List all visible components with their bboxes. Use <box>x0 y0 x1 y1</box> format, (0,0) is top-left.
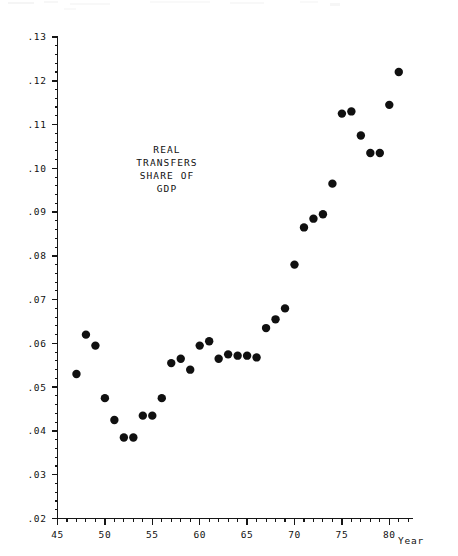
data-point <box>148 411 156 419</box>
annotation-line-3: SHARE OF <box>140 170 195 181</box>
y-tick-label: .13 <box>28 31 47 42</box>
x-tick-label: 50 <box>99 529 112 540</box>
data-point <box>167 359 175 367</box>
y-tick-label: .11 <box>28 119 47 130</box>
chart-annotation: REAL TRANSFERS SHARE OF GDP <box>136 144 197 194</box>
data-point <box>338 109 346 117</box>
y-tick-label: .10 <box>28 163 47 174</box>
annotation-line-4: GDP <box>157 183 177 194</box>
data-point <box>91 341 99 349</box>
plot-area: .02.03.04.05.06.07.08.09.10.11.12.13 455… <box>0 0 458 556</box>
y-tick-label: .02 <box>28 513 47 524</box>
data-point <box>243 351 251 359</box>
data-point <box>385 101 393 109</box>
y-tick-label: .07 <box>28 294 47 305</box>
x-axis-tick-labels: 4550556065707580 <box>51 529 395 540</box>
data-point <box>120 433 128 441</box>
x-tick-label: 80 <box>383 529 396 540</box>
data-point <box>376 149 384 157</box>
data-point <box>281 304 289 312</box>
data-point <box>252 353 260 361</box>
data-point <box>290 260 298 268</box>
y-axis-tick-labels: .02.03.04.05.06.07.08.09.10.11.12.13 <box>28 31 47 524</box>
data-points <box>72 68 403 442</box>
y-tick-label: .06 <box>28 338 47 349</box>
data-point <box>82 330 90 338</box>
y-tick-label: .08 <box>28 250 47 261</box>
data-point <box>357 131 365 139</box>
y-tick-label: .03 <box>28 469 47 480</box>
data-point <box>366 149 374 157</box>
data-point <box>233 351 241 359</box>
data-point <box>205 337 213 345</box>
data-point <box>214 355 222 363</box>
data-point <box>139 411 147 419</box>
data-point <box>196 341 204 349</box>
y-tick-label: .09 <box>28 206 47 217</box>
data-point <box>72 370 80 378</box>
scatter-chart: .02.03.04.05.06.07.08.09.10.11.12.13 455… <box>0 0 458 556</box>
y-tick-label: .12 <box>28 75 47 86</box>
x-tick-label: 55 <box>146 529 159 540</box>
y-tick-label: .04 <box>28 425 47 436</box>
data-point <box>271 315 279 323</box>
data-point <box>319 210 327 218</box>
data-point <box>186 365 194 373</box>
data-point <box>395 68 403 76</box>
x-tick-label: 60 <box>193 529 206 540</box>
data-point <box>158 394 166 402</box>
x-axis-title: Year <box>398 535 424 546</box>
x-tick-label: 45 <box>51 529 64 540</box>
x-tick-label: 70 <box>288 529 301 540</box>
annotation-line-1: REAL <box>153 144 180 155</box>
data-point <box>262 324 270 332</box>
x-axis-ticks <box>58 519 409 526</box>
y-axis-ticks <box>52 37 58 519</box>
data-point <box>328 179 336 187</box>
y-tick-label: .05 <box>28 382 47 393</box>
data-point <box>300 223 308 231</box>
axis-lines <box>58 36 414 519</box>
data-point <box>110 416 118 424</box>
data-point <box>129 433 137 441</box>
annotation-line-2: TRANSFERS <box>136 157 197 168</box>
x-tick-label: 65 <box>241 529 254 540</box>
x-tick-label: 75 <box>336 529 349 540</box>
data-point <box>177 355 185 363</box>
data-point <box>101 394 109 402</box>
data-point <box>309 214 317 222</box>
data-point <box>347 107 355 115</box>
data-point <box>224 350 232 358</box>
